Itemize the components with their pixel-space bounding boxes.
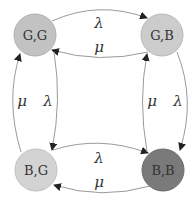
edge-label-bg-gg: μ [17, 92, 27, 110]
node-gg: G,G [14, 14, 56, 56]
edge-label-bb-bg: μ [94, 173, 104, 191]
edge-label-gb-bb: λ [172, 92, 183, 110]
node-gb: G,B [141, 14, 183, 56]
node-bb: B,B [142, 149, 184, 191]
node-gb-label: G,B [150, 28, 174, 43]
edge-label-bb-gb: μ [147, 92, 157, 110]
node-gg-label: G,G [23, 28, 47, 43]
edge-label-bg-bb: λ [93, 149, 104, 167]
node-bg-label: B,G [24, 163, 48, 178]
node-bg: B,G [15, 149, 57, 191]
edge-label-gg-bg: λ [42, 92, 53, 110]
state-diagram: G,G G,B B,G B,B λ μ λ μ μ λ μ λ [0, 0, 196, 201]
edge-label-gg-gb: λ [93, 14, 104, 32]
edge-label-gb-gg: μ [94, 38, 104, 56]
edge-gg-to-bg [52, 52, 58, 150]
node-bb-label: B,B [151, 163, 174, 178]
